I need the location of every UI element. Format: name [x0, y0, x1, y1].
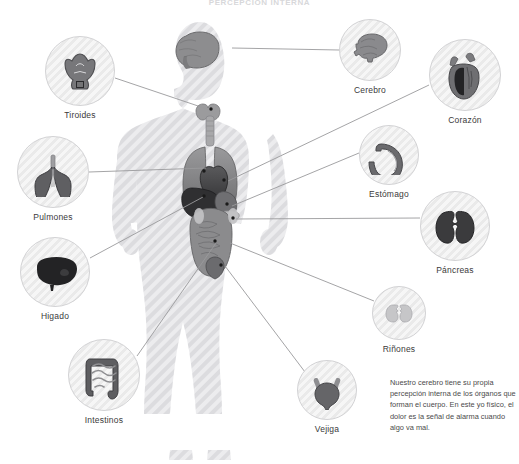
- info-paragraph: Nuestro cerebro tiene su propia percepci…: [390, 377, 516, 433]
- thyroid-icon: [45, 36, 115, 106]
- page-title: PERCEPCIÓN INTERNA: [0, 0, 519, 7]
- callout-corazon[interactable]: Corazón: [429, 39, 501, 125]
- stomach-icon: [359, 125, 419, 185]
- callout-rinones[interactable]: Riñones: [372, 286, 426, 354]
- body-markers: [202, 107, 234, 266]
- kidneys-icon: [372, 286, 426, 340]
- bladder-icon: [297, 360, 357, 420]
- callout-higado[interactable]: Higado: [20, 237, 90, 321]
- brain-icon: [339, 19, 401, 81]
- callout-label: Páncreas: [420, 265, 490, 275]
- callout-pulmones[interactable]: Pulmones: [17, 136, 89, 222]
- intestines-icon: [68, 339, 140, 411]
- liver-icon: [20, 237, 90, 307]
- callout-label: Intestinos: [68, 415, 140, 425]
- pancreas-icon: [420, 191, 490, 261]
- diagram-canvas: PERCEPCIÓN INTERNA: [0, 0, 519, 464]
- callout-pancreas[interactable]: Páncreas: [420, 191, 490, 275]
- callout-cerebro[interactable]: Cerebro: [339, 19, 401, 95]
- callout-tiroides[interactable]: Tiroides: [45, 36, 115, 120]
- callout-label: Corazón: [429, 115, 501, 125]
- callout-label: Pulmones: [17, 212, 89, 222]
- callout-estomago[interactable]: Estómago: [359, 125, 419, 199]
- callout-label: Riñones: [372, 344, 426, 354]
- callout-label: Tiroides: [45, 110, 115, 120]
- callout-label: Vejiga: [297, 424, 357, 434]
- callout-label: Higado: [20, 311, 90, 321]
- callout-intestinos[interactable]: Intestinos: [68, 339, 140, 425]
- callout-label: Cerebro: [339, 85, 401, 95]
- callout-label: Estómago: [359, 189, 419, 199]
- internal-organs: [176, 32, 239, 279]
- callout-vejiga[interactable]: Vejiga: [297, 360, 357, 434]
- heart-icon: [429, 39, 501, 111]
- lungs-icon: [17, 136, 89, 208]
